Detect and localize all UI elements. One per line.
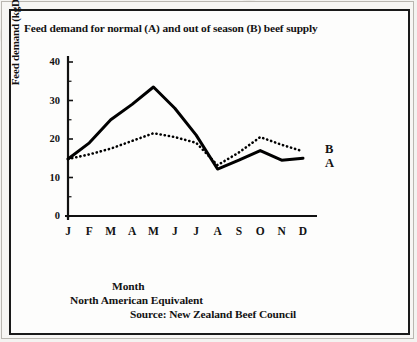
series-line-A [68, 87, 303, 169]
line-chart-svg [14, 48, 394, 278]
series-line-B [68, 133, 303, 165]
caption-north-american-equivalent: North American Equivalent [70, 294, 203, 306]
legend-label-a: A [325, 157, 334, 169]
chart-title: Feed demand for normal (A) and out of se… [24, 22, 404, 34]
legend-label-b: B [325, 143, 333, 155]
caption-source: Source: New Zealand Beef Council [130, 308, 296, 320]
chart-page: Feed demand for normal (A) and out of se… [0, 0, 417, 342]
x-axis-title: Month [112, 280, 144, 292]
plot-area: Feed demand (kgDM/d) 010203040 JFMAMJJAS… [14, 48, 394, 278]
